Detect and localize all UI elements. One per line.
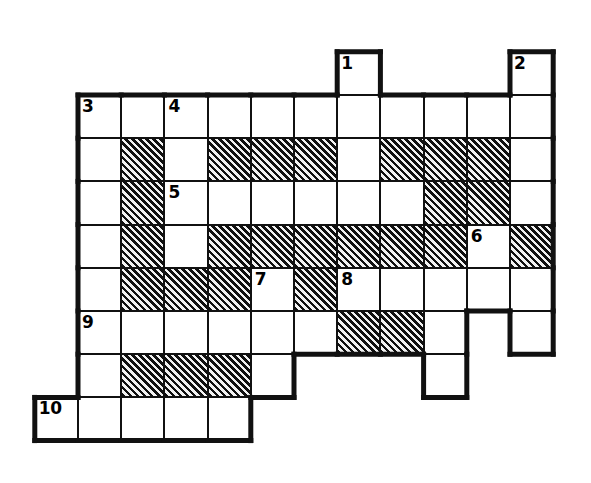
blocked-square — [121, 225, 164, 268]
letter-square[interactable] — [294, 95, 337, 138]
letter-square[interactable] — [380, 95, 423, 138]
letter-square[interactable] — [510, 95, 553, 138]
blocked-square — [121, 138, 164, 181]
blocked-square — [424, 181, 467, 224]
letter-square[interactable] — [35, 397, 78, 440]
crossword-puzzle: 12345678910 — [0, 0, 591, 483]
letter-square[interactable] — [510, 268, 553, 311]
letter-square[interactable] — [78, 268, 121, 311]
blocked-square — [294, 225, 337, 268]
crossword-grid[interactable]: 12345678910 — [0, 0, 591, 483]
letter-square[interactable] — [510, 181, 553, 224]
letter-square[interactable] — [208, 181, 251, 224]
letter-square[interactable] — [164, 311, 207, 354]
blocked-square — [337, 225, 380, 268]
letter-square[interactable] — [424, 95, 467, 138]
letter-square[interactable] — [164, 95, 207, 138]
letter-square[interactable] — [251, 95, 294, 138]
blocked-square — [337, 311, 380, 354]
blocked-square — [467, 181, 510, 224]
letter-square[interactable] — [164, 138, 207, 181]
letter-square[interactable] — [251, 354, 294, 397]
blocked-square — [251, 138, 294, 181]
letter-square[interactable] — [208, 95, 251, 138]
blocked-square — [121, 354, 164, 397]
blocked-square — [121, 181, 164, 224]
letter-square[interactable] — [337, 52, 380, 95]
blocked-square — [380, 225, 423, 268]
letter-square[interactable] — [121, 397, 164, 440]
blocked-square — [208, 354, 251, 397]
blocked-square — [121, 268, 164, 311]
letter-square[interactable] — [78, 354, 121, 397]
letter-square[interactable] — [78, 225, 121, 268]
letter-square[interactable] — [424, 268, 467, 311]
letter-square[interactable] — [337, 138, 380, 181]
letter-square[interactable] — [78, 138, 121, 181]
letter-square[interactable] — [337, 268, 380, 311]
letter-square[interactable] — [380, 268, 423, 311]
letter-square[interactable] — [78, 181, 121, 224]
blocked-square — [208, 138, 251, 181]
blocked-square — [380, 138, 423, 181]
letter-square[interactable] — [78, 95, 121, 138]
letter-square[interactable] — [467, 225, 510, 268]
blocked-square — [424, 225, 467, 268]
letter-square[interactable] — [337, 95, 380, 138]
letter-square[interactable] — [164, 397, 207, 440]
letter-square[interactable] — [510, 311, 553, 354]
letter-square[interactable] — [251, 268, 294, 311]
blocked-square — [164, 354, 207, 397]
letter-square[interactable] — [294, 181, 337, 224]
letter-square[interactable] — [208, 397, 251, 440]
letter-square[interactable] — [294, 311, 337, 354]
blocked-square — [424, 138, 467, 181]
letter-square[interactable] — [251, 311, 294, 354]
blocked-square — [510, 225, 553, 268]
blocked-square — [294, 268, 337, 311]
blocked-square — [164, 268, 207, 311]
letter-square[interactable] — [121, 311, 164, 354]
letter-square[interactable] — [467, 268, 510, 311]
blocked-square — [208, 268, 251, 311]
letter-square[interactable] — [164, 225, 207, 268]
letter-square[interactable] — [467, 95, 510, 138]
letter-square[interactable] — [510, 138, 553, 181]
letter-square[interactable] — [208, 311, 251, 354]
letter-square[interactable] — [424, 354, 467, 397]
blocked-square — [294, 138, 337, 181]
blocked-square — [208, 225, 251, 268]
blocked-square — [380, 311, 423, 354]
letter-square[interactable] — [78, 397, 121, 440]
letter-square[interactable] — [251, 181, 294, 224]
letter-square[interactable] — [164, 181, 207, 224]
letter-square[interactable] — [424, 311, 467, 354]
blocked-square — [467, 138, 510, 181]
blocked-square — [251, 225, 294, 268]
letter-square[interactable] — [337, 181, 380, 224]
letter-square[interactable] — [510, 52, 553, 95]
letter-square[interactable] — [121, 95, 164, 138]
letter-square[interactable] — [380, 181, 423, 224]
letter-square[interactable] — [78, 311, 121, 354]
